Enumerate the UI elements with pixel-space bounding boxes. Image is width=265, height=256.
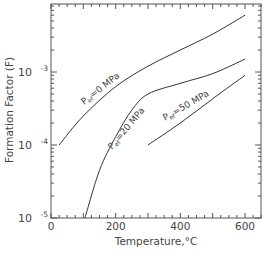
data-series: [59, 15, 245, 218]
x-tick-label: 400: [170, 220, 190, 232]
plot-frame: [51, 4, 261, 218]
x-tick-label: 0: [48, 220, 55, 232]
plot-border: [51, 4, 261, 218]
y-tick-label: 10: [18, 66, 32, 79]
y-tick-label: 10: [18, 212, 32, 225]
series-label-1: Pef=20 MPa: [106, 105, 147, 151]
y-tick-exponent: -5: [41, 210, 49, 219]
y-tick-exponent: -3: [41, 64, 49, 73]
y-axis-label: Formation Factor (F): [3, 57, 15, 163]
formation-factor-chart: 020040060010-510-410-3 Pef=0 MPaPef=20 M…: [0, 0, 265, 256]
y-tick-exponent: -4: [41, 137, 49, 146]
series-labels: Pef=0 MPaPef=20 MPaPef=50 MPa: [79, 71, 211, 152]
x-tick-label: 200: [106, 220, 126, 232]
series-line-2: [148, 75, 245, 145]
y-tick-label: 10: [18, 139, 32, 152]
x-axis-label: Temperature,°C: [114, 235, 197, 247]
series-line-0: [59, 15, 245, 145]
x-tick-label: 600: [235, 220, 255, 232]
series-label-0: Pef=0 MPa: [79, 71, 122, 108]
